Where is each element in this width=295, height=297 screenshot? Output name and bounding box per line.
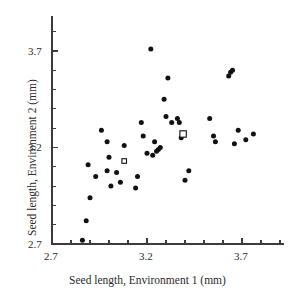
data-point <box>169 120 174 125</box>
data-point <box>145 151 150 156</box>
y-tick-label-2: 3.7 <box>28 45 42 57</box>
data-point <box>152 139 157 144</box>
data-point <box>186 168 191 173</box>
secondary-mean-marker <box>122 159 127 164</box>
scatter-plot-figure: Seed length, Environment 2 (mm) Seed len… <box>0 0 295 297</box>
data-points <box>80 47 256 243</box>
data-point <box>150 153 155 158</box>
data-point <box>108 184 113 189</box>
data-point <box>84 218 89 223</box>
data-point <box>207 116 212 121</box>
data-point <box>213 139 218 144</box>
data-point <box>165 76 170 81</box>
data-point <box>211 133 216 138</box>
data-point <box>243 137 248 142</box>
data-point <box>135 174 140 179</box>
axis-spines <box>52 16 284 244</box>
data-point <box>118 180 123 185</box>
data-point <box>251 131 256 136</box>
data-point <box>105 168 110 173</box>
x-tick-label-2: 3.7 <box>234 250 248 262</box>
data-point <box>139 120 144 125</box>
data-point <box>232 141 237 146</box>
data-point <box>86 162 91 167</box>
data-point <box>162 97 167 102</box>
mean-marker <box>180 131 186 137</box>
data-point <box>93 174 98 179</box>
plot-axes <box>52 16 284 244</box>
x-tick-label-1: 3.2 <box>139 250 153 262</box>
data-point <box>158 145 163 150</box>
y-axis-title: Seed length, Environment 2 (mm) <box>26 79 38 236</box>
data-point <box>105 139 110 144</box>
data-point <box>133 186 138 191</box>
data-point <box>114 170 119 175</box>
x-tick-label-0: 2.7 <box>44 250 58 262</box>
data-point <box>148 47 153 52</box>
data-point <box>177 120 182 125</box>
data-point <box>236 128 241 133</box>
data-point <box>122 143 127 148</box>
data-point <box>80 238 85 243</box>
data-point <box>230 68 235 73</box>
data-point <box>164 114 169 119</box>
data-point <box>183 178 188 183</box>
data-point <box>88 195 93 200</box>
data-point <box>107 155 112 160</box>
data-point <box>141 133 146 138</box>
x-axis-title: Seed length, Environment 1 (mm) <box>0 274 295 286</box>
y-tick-label-1: 3.2 <box>28 141 42 153</box>
y-tick-label-0: 2.7 <box>28 238 42 250</box>
data-point <box>99 128 104 133</box>
